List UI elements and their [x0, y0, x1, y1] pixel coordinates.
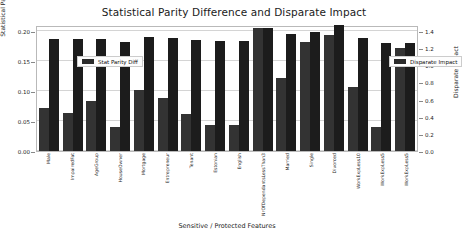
legend-swatch-icon — [394, 59, 406, 64]
bar-group — [227, 27, 251, 151]
legend-disparate-impact[interactable]: Disparate Impact — [389, 56, 462, 67]
left-y-tick-label: 0.05 — [0, 119, 30, 125]
figure-canvas: Statistical Parity Difference and Dispar… — [0, 0, 468, 244]
x-tick: HouseOwner — [108, 153, 132, 215]
bar-stat-parity-diff — [86, 101, 96, 151]
bar-stat-parity-diff — [181, 114, 191, 151]
left-y-tick-label: 0.00 — [0, 149, 30, 155]
right-y-tick-label: 0.6 — [425, 98, 451, 104]
bar-stat-parity-diff — [110, 127, 120, 151]
bar-disparate-impact — [310, 32, 320, 151]
legend-swatch-icon — [82, 59, 94, 64]
x-tick: Tenant — [179, 153, 203, 215]
x-tick: WorkExpLess5 — [394, 153, 418, 215]
x-tick-label: Male — [45, 153, 50, 164]
bar-group — [61, 27, 85, 151]
bar-stat-parity-diff — [253, 28, 263, 151]
bar-disparate-impact — [286, 34, 296, 151]
x-tick: AgeGroup — [84, 153, 108, 215]
bar-group — [298, 27, 322, 151]
left-y-tick-label: 0.10 — [0, 89, 30, 95]
right-y-tick-mark — [419, 118, 423, 119]
x-tick: Entrepreneur — [155, 153, 179, 215]
bar-series-container — [37, 27, 417, 151]
x-tick: NrOfDependantsLessThan3 — [251, 153, 275, 215]
right-y-tick-label: 1.4 — [425, 29, 451, 35]
bar-disparate-impact — [215, 41, 225, 151]
bar-group — [370, 27, 394, 151]
bar-disparate-impact — [144, 37, 154, 151]
right-y-tick-mark — [419, 135, 423, 136]
x-tick: ImpairedFat — [60, 153, 84, 215]
bar-group — [251, 27, 275, 151]
bar-stat-parity-diff — [348, 87, 358, 151]
bar-disparate-impact — [191, 40, 201, 151]
bar-group — [275, 27, 299, 151]
legend-stat-parity-diff[interactable]: Stat Parity Diff — [77, 56, 143, 67]
right-y-tick-mark — [419, 152, 423, 153]
x-tick-label: English — [236, 153, 241, 170]
right-y-tick-mark — [419, 83, 423, 84]
x-tick-label: Single — [308, 153, 313, 167]
x-tick-label: WorkExpLess5 — [380, 153, 385, 186]
right-y-axis-ticks: 0.00.20.40.60.81.01.21.4 — [418, 0, 468, 244]
bar-disparate-impact — [263, 28, 273, 151]
chart-title: Statistical Parity Difference and Dispar… — [0, 6, 468, 18]
right-y-tick-label: 0.4 — [425, 115, 451, 121]
x-axis-title: Sensitive / Protected Features — [36, 222, 418, 230]
bar-group — [108, 27, 132, 151]
right-y-tick-label: 0.8 — [425, 80, 451, 86]
x-tick-label: ImpairedFat — [69, 153, 74, 180]
x-tick-label: HouseOwner — [117, 153, 122, 182]
left-y-tick-mark — [31, 122, 35, 123]
x-tick: Male — [36, 153, 60, 215]
x-tick-label: WorkExpLess10 — [356, 153, 361, 189]
x-tick: WorkExpLess10 — [346, 153, 370, 215]
legend-label: Disparate Impact — [410, 59, 457, 65]
x-tick-label: Divorced — [332, 153, 337, 173]
right-y-tick-mark — [419, 101, 423, 102]
right-y-tick-mark — [419, 49, 423, 50]
x-tick-label: AgeGroup — [93, 153, 98, 176]
x-tick: Single — [299, 153, 323, 215]
bar-stat-parity-diff — [300, 42, 310, 151]
bar-group — [132, 27, 156, 151]
bar-group — [156, 27, 180, 151]
x-tick: Divorced — [323, 153, 347, 215]
bar-group — [322, 27, 346, 151]
left-y-tick-mark — [31, 92, 35, 93]
bar-stat-parity-diff — [324, 35, 334, 151]
x-tick-label: Married — [284, 153, 289, 171]
x-tick-label: WorkExpLess5 — [404, 153, 409, 186]
left-y-tick-mark — [31, 152, 35, 153]
x-tick-label: Entrepreneur — [165, 153, 170, 183]
bar-disparate-impact — [49, 39, 59, 151]
x-tick: WorkExpLess5 — [370, 153, 394, 215]
right-y-axis-title: Disparate Impact — [452, 12, 459, 132]
bar-group — [346, 27, 370, 151]
bar-group — [393, 27, 417, 151]
bar-disparate-impact — [239, 41, 249, 151]
bar-group — [203, 27, 227, 151]
left-y-tick-mark — [31, 32, 35, 33]
x-tick: English — [227, 153, 251, 215]
x-tick: Estonian — [203, 153, 227, 215]
bar-disparate-impact — [168, 38, 178, 151]
right-y-tick-label: 1.2 — [425, 46, 451, 52]
bar-group — [180, 27, 204, 151]
x-axis-tick-labels: MaleImpairedFatAgeGroupHouseOwnerMortgag… — [36, 153, 418, 215]
left-y-tick-mark — [31, 62, 35, 63]
x-tick-label: Estonian — [213, 153, 218, 173]
x-tick-label: NrOfDependantsLessThan3 — [260, 153, 265, 216]
x-tick-label: Mortgage — [141, 153, 146, 175]
legend-label: Stat Parity Diff — [98, 59, 138, 65]
x-tick-label: Tenant — [189, 153, 194, 168]
bar-stat-parity-diff — [371, 127, 381, 151]
left-y-axis-title: Statistical Parity Difference — [0, 0, 6, 56]
bar-stat-parity-diff — [276, 78, 286, 151]
bar-group — [85, 27, 109, 151]
right-y-tick-mark — [419, 32, 423, 33]
right-y-tick-label: 0.2 — [425, 132, 451, 138]
bar-group — [37, 27, 61, 151]
x-tick: Married — [275, 153, 299, 215]
